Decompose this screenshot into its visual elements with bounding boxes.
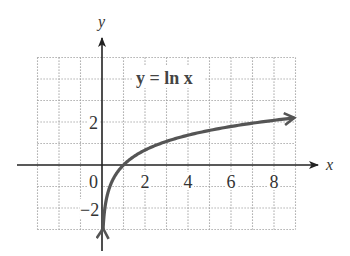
ln-graph: y x y = ln x 2 0 −2 2468	[0, 0, 350, 256]
x-tick-label: 8	[270, 172, 279, 192]
y-axis-label: y	[96, 13, 106, 31]
x-tick-label: 4	[184, 172, 193, 192]
x-tick-label: 6	[227, 172, 236, 192]
ln-curve	[103, 118, 293, 230]
x-tick-label: 2	[141, 172, 150, 192]
y-tick-label-neg2: −2	[80, 200, 99, 220]
origin-label: 0	[89, 172, 98, 192]
x-axis-label: x	[325, 156, 333, 173]
equation-label: y = ln x	[136, 68, 193, 88]
y-tick-label-2: 2	[89, 113, 98, 133]
